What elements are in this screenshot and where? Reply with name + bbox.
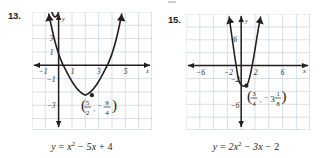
y-axis-13 [56, 14, 61, 127]
xtick-3: 3 [96, 67, 101, 76]
grid-lines-13 [32, 12, 152, 130]
ytick--6: −6 [231, 101, 240, 110]
svg-text:−: − [98, 102, 102, 110]
problem-15: 15. [164, 0, 328, 158]
equation-15-term3: 2 [274, 141, 279, 152]
svg-text:,: , [260, 96, 262, 104]
svg-text:8: 8 [276, 100, 279, 107]
vertex-label-13: ( 5 2 , − 9 4 ) [81, 97, 117, 117]
svg-text:3: 3 [252, 90, 256, 98]
graph-15: −6 −2 2 6 6 −2 −6 x y ( 3 4 , − 3 1 [186, 14, 310, 130]
svg-text:1: 1 [276, 90, 279, 97]
x-axis-15 [188, 63, 308, 68]
ytick--3: −3 [47, 101, 56, 110]
svg-text:,: , [94, 105, 96, 113]
equation-13-term2: 5x [86, 141, 96, 152]
y-axis-15 [239, 16, 244, 127]
ytick-6: 6 [233, 35, 237, 44]
problem-number-15: 15. [168, 14, 181, 25]
svg-text:): ) [282, 88, 287, 105]
ytick--1: −1 [47, 75, 56, 84]
y-axis-letter-15: y [244, 17, 248, 24]
equation-13-lhs: y [51, 141, 56, 152]
svg-text:(: ( [247, 88, 252, 105]
xtick-5: 5 [124, 67, 128, 76]
svg-text:): ) [112, 97, 117, 114]
x-axis-letter-15: x [302, 67, 306, 74]
xtick-6: 6 [281, 68, 285, 77]
equation-15-exp: 2 [238, 140, 241, 147]
equation-15-eq: = [220, 141, 226, 152]
svg-text:2: 2 [86, 109, 90, 117]
x-axis-13 [34, 63, 150, 68]
equation-15: y = 2x2 − 3x − 2 [164, 140, 328, 152]
equation-13-term3: 4 [108, 141, 113, 152]
xtick--6: −6 [196, 68, 205, 77]
ytick-1: 1 [50, 48, 54, 57]
y-axis-letter-13: y [61, 15, 65, 22]
equation-13-eq: = [59, 141, 65, 152]
svg-text:−: − [265, 94, 269, 102]
equation-13-op2: + [99, 141, 105, 152]
equation-13: y = x2 − 5x + 4 [0, 140, 164, 152]
equation-15-op2: − [266, 141, 272, 152]
problem-13: 13. [0, 0, 164, 158]
equation-15-op1: − [245, 141, 251, 152]
equation-13-op1: − [78, 141, 84, 152]
equation-15-lhs: y [213, 141, 218, 152]
svg-text:4: 4 [105, 109, 109, 117]
equation-13-exp: 2 [72, 140, 75, 147]
equation-15-term1: 2x [229, 141, 239, 152]
svg-text:5: 5 [86, 99, 90, 107]
problem-number-13: 13. [8, 10, 21, 21]
curve-arrow-right-13 [117, 14, 125, 22]
svg-text:9: 9 [105, 99, 109, 107]
ytick-3: 3 [49, 34, 54, 43]
parabola-curve-13 [45, 12, 58, 17]
svg-text:3: 3 [271, 94, 275, 104]
xtick-1: 1 [71, 67, 75, 76]
graph-13: −1 1 3 5 3 1 −1 −3 x y ( 5 2 , − 9 [32, 12, 152, 130]
xtick-2: 2 [254, 68, 258, 77]
ytick--2: −2 [231, 75, 240, 84]
x-axis-letter-13: x [145, 67, 149, 74]
svg-text:4: 4 [252, 100, 256, 108]
vertex-point-13 [90, 93, 94, 97]
equation-15-term2: 3x [253, 141, 263, 152]
